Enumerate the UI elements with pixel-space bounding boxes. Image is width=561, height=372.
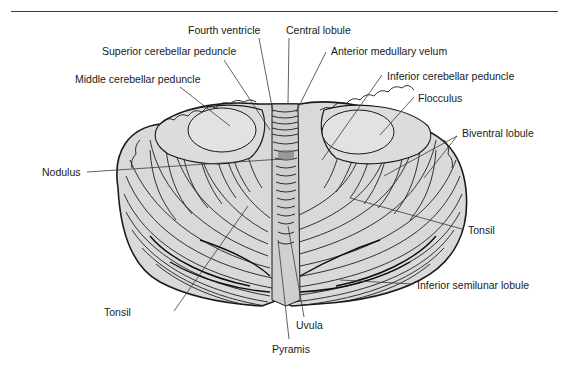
label-flocculus: Flocculus bbox=[418, 92, 462, 104]
middle-cerebellar-peduncle-oval bbox=[188, 108, 256, 152]
label-inferior-semilunar-lobule: Inferior semilunar lobule bbox=[417, 279, 529, 291]
label-uvula: Uvula bbox=[296, 319, 323, 331]
vermis-column bbox=[272, 104, 300, 306]
label-superior-cerebellar-peduncle: Superior cerebellar peduncle bbox=[102, 45, 236, 57]
label-tonsil-right: Tonsil bbox=[468, 224, 495, 236]
label-nodulus: Nodulus bbox=[42, 166, 81, 178]
label-middle-cerebellar-peduncle: Middle cerebellar peduncle bbox=[75, 73, 201, 85]
label-fourth-ventricle: Fourth ventricle bbox=[188, 24, 260, 36]
label-pyramis: Pyramis bbox=[272, 343, 310, 355]
label-biventral-lobule: Biventral lobule bbox=[462, 127, 534, 139]
label-inferior-cerebellar-peduncle: Inferior cerebellar peduncle bbox=[387, 70, 514, 82]
cerebellum-illustration bbox=[0, 0, 561, 372]
label-tonsil-left: Tonsil bbox=[104, 306, 131, 318]
label-central-lobule: Central lobule bbox=[286, 24, 351, 36]
label-anterior-medullary-velum: Anterior medullary velum bbox=[331, 45, 447, 57]
